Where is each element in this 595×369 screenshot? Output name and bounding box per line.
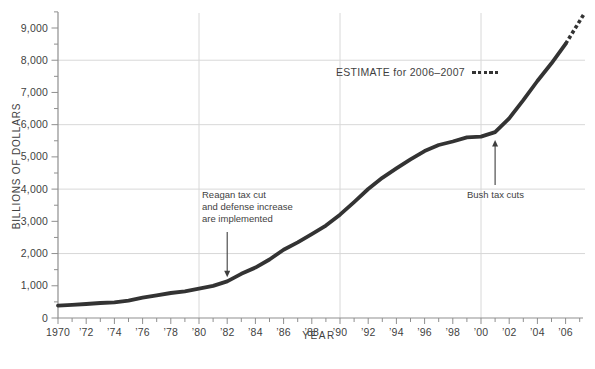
reagan-arrowhead <box>224 271 230 278</box>
y-tick-label: 0 <box>42 312 48 324</box>
axis-lines <box>58 12 583 318</box>
bush-annotation: Bush tax cuts <box>450 189 541 200</box>
estimate-legend-label: ESTIMATE for 2006–2007 <box>336 66 465 78</box>
axis-ticks <box>52 12 580 324</box>
y-tick-label: 5,000 <box>21 150 48 162</box>
debt-line-chart: 01,0002,0003,0004,0005,0006,0007,0008,00… <box>0 0 595 369</box>
chart-canvas: 01,0002,0003,0004,0005,0006,0007,0008,00… <box>0 0 595 369</box>
y-axis-title: BILLIONS OF DOLLARS <box>11 103 22 229</box>
bush-arrowhead <box>492 140 498 147</box>
axes <box>58 12 583 318</box>
y-tick-label: 2,000 <box>21 247 48 259</box>
estimate-legend: ESTIMATE for 2006–2007 <box>336 66 498 78</box>
y-tick-label: 1,000 <box>21 279 48 291</box>
estimate <box>566 14 584 44</box>
series <box>58 44 566 306</box>
y-tick-label: 6,000 <box>21 118 48 130</box>
reagan-annotation: Reagan tax cut and defense increase are … <box>202 189 293 225</box>
debt-line <box>58 44 566 306</box>
y-tick-label: 3,000 <box>21 215 48 227</box>
dashed-line-sample-icon <box>472 71 498 75</box>
y-tick-label: 4,000 <box>21 183 48 195</box>
gridlines <box>58 13 585 318</box>
y-tick-label: 7,000 <box>21 86 48 98</box>
estimate-dashed-line <box>566 14 584 44</box>
y-tick-label: 8,000 <box>21 54 48 66</box>
x-axis-title: YEAR <box>58 330 580 341</box>
y-tick-label: 9,000 <box>21 22 48 34</box>
